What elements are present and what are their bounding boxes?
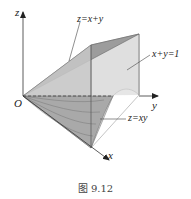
x-axis-label: x [108,150,113,161]
3d-region-diagram: z y x O z=x+y x+y=1 z=xy [0,0,191,175]
origin-label: O [14,98,22,109]
figure-caption: 图 9.12 [0,180,191,195]
y-axis-label: y [152,100,157,111]
z-axis-label: z [15,7,19,18]
diagram-canvas [0,0,191,175]
plane-top-label: z=x+y [77,14,103,24]
plane-side-label: x+y=1 [152,49,179,59]
surface-bottom-label: z=xy [128,113,148,123]
surface-z-eq-xy [23,96,113,148]
